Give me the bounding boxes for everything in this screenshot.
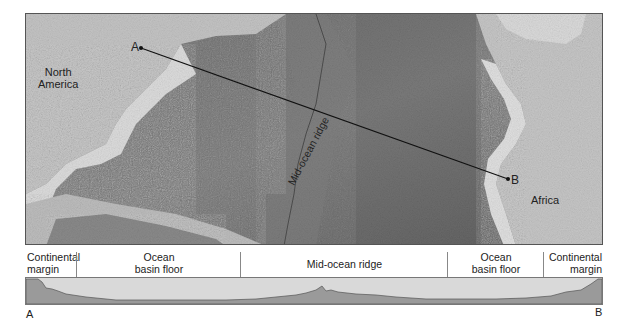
profile-fill xyxy=(26,279,602,304)
point-b-label: B xyxy=(511,174,519,186)
segment-continental-margin-right: Continental margin xyxy=(543,252,602,277)
profile-segment-labels: Continental margin Ocean basin floor Mid… xyxy=(25,252,603,277)
point-a-label: A xyxy=(131,41,139,53)
north-america-label: North America xyxy=(38,66,78,90)
seafloor-profile xyxy=(25,277,603,305)
map-graphic: Mid-ocean ridge xyxy=(26,14,603,245)
point-a-marker xyxy=(139,46,143,50)
point-b-marker xyxy=(506,177,510,181)
africa-label: Africa xyxy=(531,194,559,206)
segment-ocean-basin-left: Ocean basin floor xyxy=(76,252,241,277)
seafloor-map: Mid-ocean ridge North America A B Africa xyxy=(25,13,603,245)
segment-ocean-basin-right: Ocean basin floor xyxy=(447,252,544,277)
profile-end-b: B xyxy=(595,306,602,318)
segment-mid-ocean-ridge: Mid-ocean ridge xyxy=(240,252,448,277)
profile-graphic xyxy=(26,278,602,304)
profile-end-a: A xyxy=(26,308,33,320)
segment-continental-margin-left: Continental margin xyxy=(25,252,78,277)
